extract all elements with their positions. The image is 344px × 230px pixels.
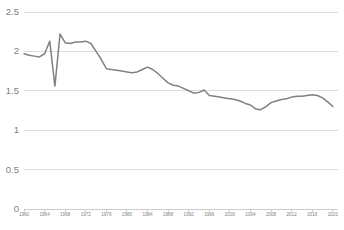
y-tick-label: 2 [14, 45, 19, 56]
x-tick-label: 1980 [122, 212, 133, 217]
data-series-line [24, 34, 333, 110]
y-tick-label: 1.5 [6, 85, 19, 96]
x-tick-label: 2008 [266, 212, 277, 217]
x-tick-label: 2012 [287, 212, 298, 217]
x-axis-tick-labels: 1960196419681972197619801984198819921996… [19, 212, 339, 217]
y-axis-tick-labels: 00.511.522.5 [6, 6, 19, 214]
x-tick-label: 1992 [184, 212, 195, 217]
x-tick-label: 1984 [142, 212, 153, 217]
x-tick-label: 1968 [60, 212, 71, 217]
y-tick-label: 0.5 [6, 164, 19, 175]
x-tick-label: 1988 [163, 212, 174, 217]
y-tick-label: 1 [14, 124, 19, 135]
x-tick-label: 1996 [204, 212, 215, 217]
x-tick-label: 1960 [19, 212, 30, 217]
x-tick-label: 2016 [307, 212, 318, 217]
y-tick-label: 2.5 [6, 6, 19, 17]
x-tick-label: 2000 [225, 212, 236, 217]
line-chart: 00.511.522.5 196019641968197219761980198… [0, 0, 344, 230]
x-tick-label: 1972 [81, 212, 92, 217]
x-tick-label: 2020 [328, 212, 339, 217]
chart-canvas: 00.511.522.5 196019641968197219761980198… [0, 0, 344, 230]
x-tick-label: 1964 [39, 212, 50, 217]
x-tick-label: 2004 [245, 212, 256, 217]
gridlines [24, 12, 338, 209]
x-tick-label: 1976 [101, 212, 112, 217]
